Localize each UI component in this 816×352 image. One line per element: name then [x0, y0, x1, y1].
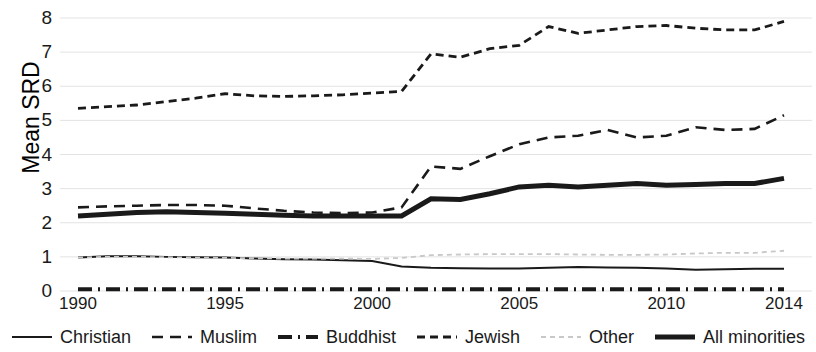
legend-item-christian[interactable]: Christian: [11, 327, 131, 348]
legend-item-muslim[interactable]: Muslim: [151, 327, 257, 348]
x-axis-tick-labels: 199019952000200520102014: [0, 294, 816, 316]
legend-label: All minorities: [703, 327, 805, 348]
series-line-jewish: [78, 21, 784, 108]
series-line-all-minorities: [78, 178, 784, 216]
legend-swatch-light-dot-icon: [540, 330, 582, 344]
legend-label: Other: [589, 327, 634, 348]
legend-item-all-minorities[interactable]: All minorities: [654, 327, 805, 348]
legend-label: Jewish: [465, 327, 520, 348]
chart-container: Mean SRD 012345678 199019952000200520102…: [0, 0, 816, 352]
legend-swatch-solid-thin-icon: [11, 330, 53, 344]
x-tick-label: 2000: [353, 294, 391, 314]
legend-item-buddhist[interactable]: Buddhist: [277, 327, 396, 348]
legend-label: Muslim: [200, 327, 257, 348]
legend-item-other[interactable]: Other: [540, 327, 634, 348]
legend-swatch-solid-thick-icon: [654, 330, 696, 344]
x-tick-label: 1995: [206, 294, 244, 314]
x-tick-label: 1990: [59, 294, 97, 314]
legend-label: Buddhist: [326, 327, 396, 348]
series-line-christian: [78, 256, 784, 270]
legend-item-jewish[interactable]: Jewish: [416, 327, 520, 348]
x-tick-label: 2010: [647, 294, 685, 314]
chart-legend: ChristianMuslimBuddhistJewishOtherAll mi…: [0, 322, 816, 352]
legend-label: Christian: [60, 327, 131, 348]
legend-swatch-short-dash-icon: [416, 330, 458, 344]
x-tick-label: 2005: [500, 294, 538, 314]
legend-swatch-long-dash-icon: [151, 330, 193, 344]
legend-swatch-dash-dot-icon: [277, 330, 319, 344]
x-tick-label: 2014: [765, 294, 803, 314]
